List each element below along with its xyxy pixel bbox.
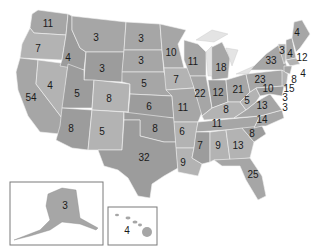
label-vt: 3	[279, 46, 285, 56]
label-oh: 21	[232, 85, 243, 95]
label-nv: 4	[47, 81, 53, 91]
label-ok: 8	[152, 124, 158, 134]
label-mn: 10	[165, 48, 176, 58]
label-ia: 7	[173, 75, 179, 85]
state-mn[interactable]	[160, 24, 186, 68]
label-ne: 5	[141, 79, 147, 89]
state-mi[interactable]	[210, 42, 230, 80]
state-nm[interactable]	[88, 110, 124, 150]
label-ak: 3	[62, 201, 68, 211]
label-wi: 11	[188, 57, 198, 67]
label-az: 8	[68, 124, 74, 134]
lake-superior	[196, 30, 228, 42]
label-hi: 4	[124, 226, 130, 236]
label-dc: 3	[282, 103, 288, 113]
label-nh: 4	[287, 49, 293, 59]
label-ma: 12	[296, 53, 307, 63]
label-va: 13	[256, 101, 267, 111]
label-ri: 4	[300, 69, 306, 79]
label-al: 9	[215, 141, 221, 151]
label-ar: 6	[179, 127, 185, 137]
label-or: 7	[35, 44, 41, 54]
label-ga: 13	[232, 141, 243, 151]
label-wa: 11	[43, 19, 53, 29]
label-sd: 3	[138, 56, 144, 66]
label-co: 8	[106, 94, 112, 104]
label-ut: 5	[74, 89, 80, 99]
label-nc: 14	[256, 115, 267, 125]
hawaii-inset-frame	[108, 207, 157, 245]
label-tn: 11	[212, 119, 222, 129]
label-ky: 8	[223, 105, 229, 115]
label-nm: 5	[99, 127, 105, 137]
us-electoral-map: 11 7 54 4 4 3 3 5 8 8 5 3 3 5 6 8 32 10 …	[0, 0, 315, 251]
label-id: 4	[65, 53, 71, 63]
label-ca: 54	[25, 93, 36, 103]
label-tx: 32	[138, 153, 149, 163]
label-ms: 7	[197, 141, 203, 151]
label-mt: 3	[93, 33, 99, 43]
lake-michigan	[206, 46, 212, 76]
label-nd: 3	[138, 34, 144, 44]
label-ks: 6	[146, 102, 152, 112]
label-mi: 18	[215, 63, 226, 73]
label-sc: 8	[249, 129, 255, 139]
label-la: 9	[180, 158, 186, 168]
label-il: 22	[194, 89, 205, 99]
label-wy: 3	[99, 64, 105, 74]
label-in: 12	[212, 88, 223, 98]
label-fl: 25	[247, 170, 258, 180]
label-md: 10	[262, 84, 273, 94]
label-ny: 33	[265, 56, 276, 66]
label-wv: 5	[244, 96, 250, 106]
label-mo: 11	[178, 103, 188, 113]
label-me: 4	[294, 28, 300, 38]
